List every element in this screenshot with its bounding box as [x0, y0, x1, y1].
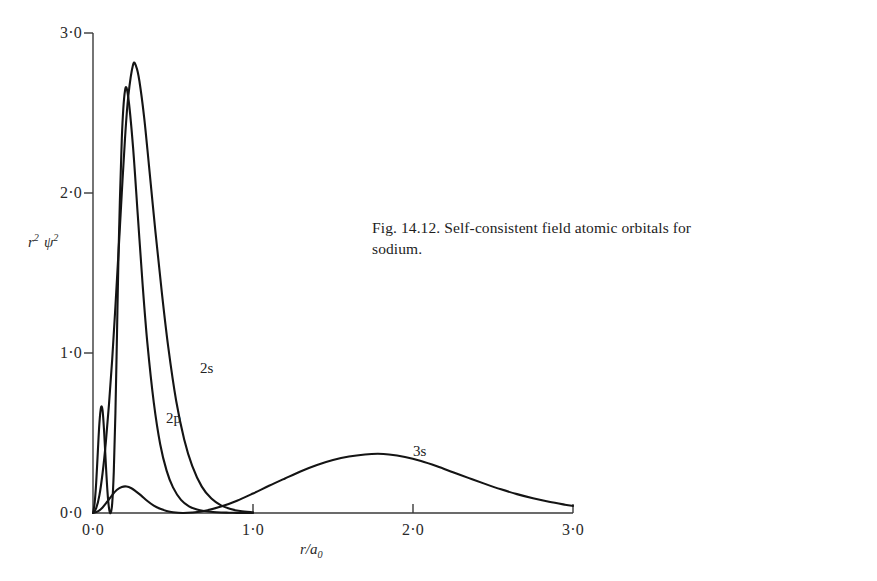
curve-label-2s: 2s	[200, 360, 213, 377]
x-tick-label-2: 2·0	[402, 521, 424, 539]
curve-2s	[93, 87, 253, 513]
x-axis-title-r-over-a: r/a	[300, 541, 318, 557]
x-tick-label-0: 0·0	[82, 521, 104, 539]
plot-canvas	[0, 0, 877, 581]
y-tick-label-3: 3·0	[34, 24, 82, 42]
y-tick-label-2: 2·0	[34, 184, 82, 202]
x-axis-ticks	[253, 504, 573, 513]
curve-label-3s: 3s	[413, 443, 426, 460]
y-tick-label-1: 1·0	[34, 344, 82, 362]
y-axis-title-r-exponent: 2	[34, 232, 39, 243]
x-axis-title: r/a0	[300, 541, 323, 560]
x-axis-title-subscript: 0	[318, 549, 323, 560]
axis-lines	[93, 33, 573, 513]
figure-root: 0·0 1·0 2·0 3·0 0·0 1·0 2·0 3·0 r2ψ2 r/a…	[0, 0, 877, 581]
curve-2p	[93, 63, 253, 513]
y-axis-title: r2ψ2	[28, 232, 58, 251]
y-tick-label-0: 0·0	[34, 504, 82, 522]
y-axis-ticks	[84, 33, 93, 353]
data-curves	[93, 63, 573, 514]
y-axis-title-psi: ψ	[44, 234, 53, 250]
curve-label-2p: 2p	[166, 410, 181, 427]
y-axis-title-psi-exponent: 2	[53, 232, 58, 243]
x-tick-label-1: 1·0	[242, 521, 264, 539]
x-tick-label-3: 3·0	[562, 521, 584, 539]
figure-caption: Fig. 14.12. Self-consistent field atomic…	[372, 218, 722, 259]
